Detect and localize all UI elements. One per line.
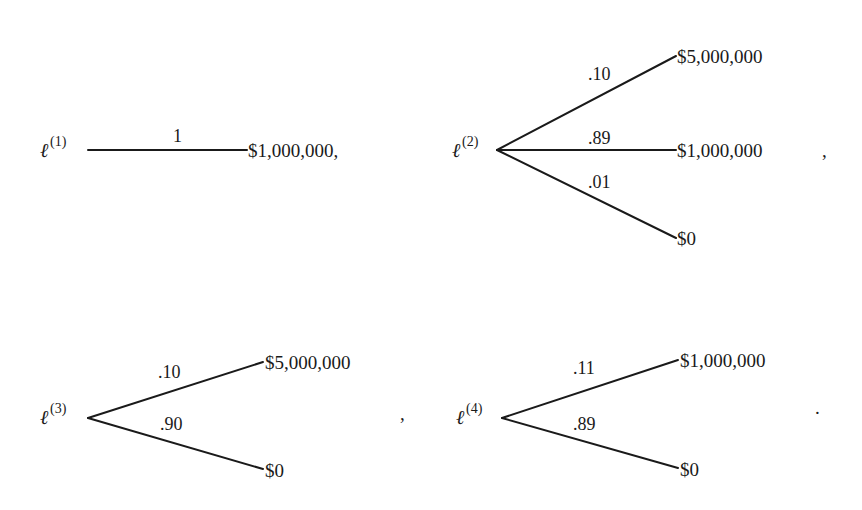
lottery-3: ℓ (3) .10 .90 $5,000,000 $0 ,: [40, 352, 405, 481]
branch-probability: .10: [588, 64, 611, 84]
lottery-1: ℓ (1) 1 $1,000,000,: [40, 126, 338, 161]
branch-outcome: $1,000,000: [677, 140, 763, 161]
lottery-index: (3): [50, 401, 67, 417]
trailing-punctuation: ,: [822, 140, 827, 161]
lottery-diagram: ℓ (1) 1 $1,000,000, ℓ (2) .10 .89 .01 $5…: [0, 0, 862, 510]
lottery-symbol: ℓ: [40, 406, 49, 428]
lottery-symbol: ℓ: [456, 406, 465, 428]
branch-line-upper: [497, 56, 676, 150]
branch-outcome: $1,000,000,: [248, 140, 338, 161]
branch-outcome: $1,000,000: [680, 350, 766, 371]
branch-line-lower: [497, 150, 676, 238]
branch-probability: .10: [158, 362, 181, 382]
lottery-symbol: ℓ: [452, 139, 461, 161]
branch-probability: 1: [173, 126, 182, 146]
branch-outcome: $5,000,000: [677, 46, 763, 67]
lottery-4: ℓ (4) .11 .89 $1,000,000 $0 .: [456, 350, 820, 480]
lottery-index: (2): [462, 134, 479, 150]
branch-outcome: $0: [265, 460, 284, 481]
branch-probability: .89: [573, 414, 596, 434]
branch-outcome: $0: [680, 459, 699, 480]
lottery-symbol: ℓ: [40, 139, 49, 161]
branch-outcome: $0: [677, 228, 696, 249]
branch-probability: .89: [588, 128, 611, 148]
branch-probability: .90: [160, 414, 183, 434]
branch-probability: .11: [573, 358, 595, 378]
trailing-punctuation: .: [815, 397, 820, 418]
lottery-index: (1): [50, 134, 67, 150]
lottery-2: ℓ (2) .10 .89 .01 $5,000,000 $1,000,000 …: [452, 46, 827, 249]
branch-outcome: $5,000,000: [265, 352, 351, 373]
branch-probability: .01: [588, 172, 611, 192]
trailing-punctuation: ,: [400, 403, 405, 424]
lottery-index: (4): [466, 401, 483, 417]
